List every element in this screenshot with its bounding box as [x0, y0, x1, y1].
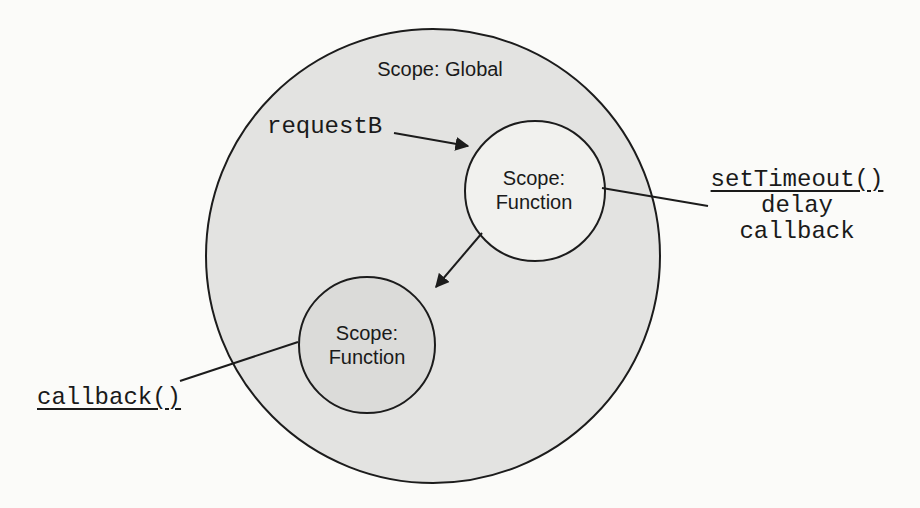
global-scope-circle: [206, 29, 660, 483]
settimeout-ref-block: setTimeout() delay callback: [711, 167, 884, 245]
settimeout-title: setTimeout(): [711, 167, 884, 193]
settimeout-scope-label-line1: Scope:: [496, 166, 573, 190]
callback-scope-label-line2: Function: [329, 345, 406, 369]
scope-diagram: Scope: Global Scope: Function Scope: Fun…: [0, 0, 920, 508]
callback-ref-label: callback(): [37, 384, 181, 413]
settimeout-arg-callback: callback: [711, 219, 884, 245]
callback-scope-label-line1: Scope:: [329, 321, 406, 345]
settimeout-arg-delay: delay: [711, 193, 884, 219]
settimeout-scope-label: Scope: Function: [496, 166, 573, 214]
callback-scope-label: Scope: Function: [329, 321, 406, 369]
settimeout-scope-label-line2: Function: [496, 190, 573, 214]
requestb-label: requestB: [267, 113, 382, 142]
global-scope-label: Scope: Global: [377, 57, 503, 81]
